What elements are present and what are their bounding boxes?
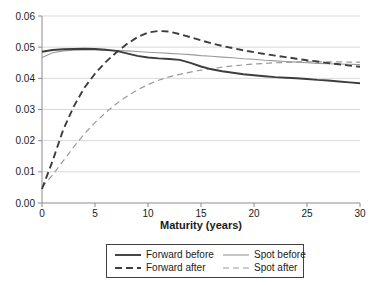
legend-line-sample (223, 265, 249, 271)
x-axis-tick-label: 25 (301, 208, 313, 219)
legend-label: Spot after (254, 262, 297, 273)
x-axis-tick-label: 5 (92, 208, 98, 219)
x-axis-tick-label: 30 (354, 208, 366, 219)
x-axis-tick-label: 10 (142, 208, 154, 219)
legend-item-spot-after: Spot after (223, 262, 303, 273)
y-axis-tick-label: 0.00 (16, 198, 36, 209)
y-axis-tick-label: 0.06 (16, 11, 36, 22)
series-line-spot-before (42, 50, 360, 65)
y-axis-tick-label: 0.03 (16, 104, 36, 115)
plot-area: 0.000.010.020.030.040.050.06051015202530 (0, 0, 377, 240)
y-axis-tick-label: 0.05 (16, 42, 36, 53)
y-axis-tick-label: 0.02 (16, 135, 36, 146)
legend-label: Forward after (146, 262, 205, 273)
x-axis-tick-label: 15 (195, 208, 207, 219)
legend-line-sample (115, 265, 141, 271)
legend: Forward beforeSpot beforeForward afterSp… (106, 244, 304, 278)
legend-label: Forward before (146, 249, 214, 260)
legend-item-forward-before: Forward before (115, 249, 223, 260)
legend-item-forward-after: Forward after (115, 262, 223, 273)
legend-item-spot-before: Spot before (223, 249, 303, 260)
x-axis-title: Maturity (years) (42, 219, 360, 231)
y-axis-tick-label: 0.04 (16, 73, 36, 84)
y-axis-tick-label: 0.01 (16, 166, 36, 177)
x-axis-tick-label: 0 (39, 208, 45, 219)
chart-figure: 0.000.010.020.030.040.050.06051015202530… (0, 0, 377, 285)
legend-label: Spot before (254, 249, 306, 260)
legend-line-sample (223, 252, 249, 258)
x-axis-tick-label: 20 (248, 208, 260, 219)
series-line-spot-after (42, 62, 360, 188)
legend-line-sample (115, 252, 141, 258)
